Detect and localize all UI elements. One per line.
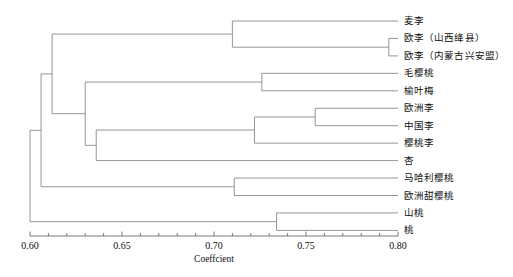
tree-branches [30, 21, 398, 230]
x-axis [30, 232, 398, 237]
dendrogram-canvas [0, 0, 513, 277]
dendrogram-figure: 麦李欧李（山西绛县）欧李（内蒙古兴安盟）毛樱桃榆叶梅欧洲李中国李樱桃李杏马哈利樱… [0, 0, 513, 277]
axis-title: Coeffcient [194, 254, 234, 264]
